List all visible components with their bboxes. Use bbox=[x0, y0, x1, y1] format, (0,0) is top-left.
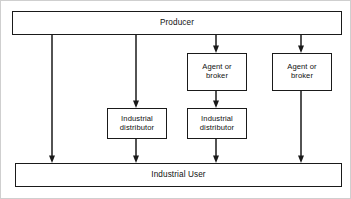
node-industrial-user-label: Industrial User bbox=[16, 170, 341, 180]
diagram-canvas: Producer Agent or broker Agent or broker… bbox=[0, 0, 351, 199]
node-industrial-distributor-2-label: Industrial distributor bbox=[188, 115, 246, 133]
arrow-producer-to-agent-2 bbox=[298, 35, 304, 53]
node-producer[interactable]: Producer bbox=[12, 11, 342, 35]
node-agent-or-broker-1[interactable]: Agent or broker bbox=[187, 53, 247, 91]
arrow-distributor-2-to-user bbox=[213, 139, 219, 163]
node-agent-or-broker-2[interactable]: Agent or broker bbox=[272, 53, 332, 91]
arrow-agent-2-to-user bbox=[298, 91, 304, 163]
node-industrial-user[interactable]: Industrial User bbox=[15, 163, 342, 187]
arrow-producer-to-distributor-1 bbox=[133, 35, 139, 108]
arrow-distributor-1-to-user bbox=[133, 139, 139, 163]
node-industrial-distributor-1-label: Industrial distributor bbox=[108, 115, 166, 133]
node-industrial-distributor-2[interactable]: Industrial distributor bbox=[187, 108, 247, 139]
node-agent-or-broker-1-label: Agent or broker bbox=[188, 63, 246, 81]
arrow-agent-1-to-distributor-2 bbox=[213, 91, 219, 108]
node-agent-or-broker-2-label: Agent or broker bbox=[273, 63, 331, 81]
node-industrial-distributor-1[interactable]: Industrial distributor bbox=[107, 108, 167, 139]
node-producer-label: Producer bbox=[13, 18, 341, 28]
arrow-producer-to-agent-1 bbox=[213, 35, 219, 53]
arrow-producer-to-user-direct bbox=[49, 35, 55, 163]
